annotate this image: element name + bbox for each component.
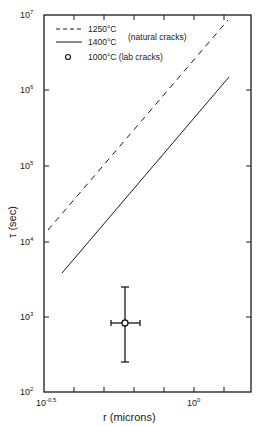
legend-open-circle-marker: [66, 55, 71, 60]
legend-group-natural-cracks: (natural cracks): [128, 32, 187, 42]
y-tick-1e2: 102: [20, 386, 34, 397]
lab-cracks-data-point: [111, 287, 140, 362]
y-ticks: [44, 90, 251, 317]
legend-entry-1250c: 1250°C: [88, 24, 116, 34]
y-tick-labels: 107 106 105 104 103 102: [20, 9, 34, 397]
series-1400c-solid-line: [62, 77, 229, 273]
legend-entry-1400c: 1400°C: [88, 37, 116, 47]
x-axis-title: r (microns): [103, 411, 156, 423]
y-tick-1e7: 107: [20, 9, 34, 20]
chart: 107 106 105 104 103 102 10-0.5 100 r (mi…: [0, 0, 258, 426]
y-axis-title: τ (sec): [6, 206, 18, 238]
y-tick-1e6: 106: [20, 84, 34, 95]
x-ticks: [74, 15, 224, 392]
x-tick-1e-0.5: 10-0.5: [36, 397, 57, 408]
x-tick-labels: 10-0.5 100: [36, 397, 201, 408]
y-tick-1e4: 104: [20, 236, 34, 247]
x-tick-1e0: 100: [187, 397, 201, 408]
legend: 1250°C 1400°C (natural cracks) 1000°C (l…: [56, 24, 187, 62]
plot-frame: [44, 15, 251, 392]
y-tick-1e5: 105: [20, 160, 34, 171]
legend-entry-1000c-lab: 1000°C (lab cracks): [88, 52, 163, 62]
y-tick-1e3: 103: [20, 311, 34, 322]
